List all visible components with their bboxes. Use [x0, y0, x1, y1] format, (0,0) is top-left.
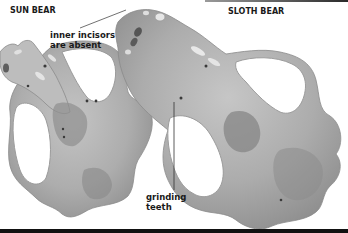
grinding-caption-line-2: teeth — [146, 202, 186, 212]
grinding-teeth-caption: grinding teeth — [146, 192, 186, 212]
sun-bear-title: SUN BEAR — [10, 6, 56, 15]
incisors-caption-line-1: inner incisors — [50, 30, 115, 40]
sloth-bear-title: SLOTH BEAR — [228, 7, 284, 16]
bottom-rule — [0, 229, 348, 233]
skull-comparison-figure: SUN BEAR SLOTH BEAR inner incisors are a… — [0, 0, 348, 233]
grinding-caption-line-1: grinding — [146, 192, 186, 202]
incisors-caption: inner incisors are absent — [50, 30, 115, 50]
incisors-caption-line-2: are absent — [50, 40, 115, 50]
